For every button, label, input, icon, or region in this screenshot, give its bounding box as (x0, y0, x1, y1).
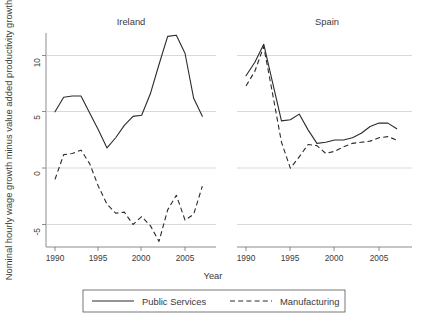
series-line-public-services-ireland (55, 35, 202, 148)
chart-figure: Nominal hourly wage growth minus value a… (0, 0, 427, 321)
x-tick-label-1995-spain: 1995 (281, 253, 300, 263)
y-axis (42, 33, 46, 247)
x-tick-label-1995-ireland: 1995 (89, 253, 108, 263)
x-tick-label-1990-spain: 1990 (237, 253, 256, 263)
y-tick-label-10: 10 (32, 58, 42, 68)
spain-x-axis: 1990 1995 2000 2005 (237, 247, 412, 263)
y-tick-label-0: 0 (32, 171, 42, 176)
x-tick-label-2005-spain: 2005 (370, 253, 389, 263)
y-tick-label-5: 5 (32, 115, 42, 120)
panel-spain: Spain 1990 1995 2000 2005 (237, 16, 412, 263)
x-tick-label-2005-ireland: 2005 (176, 253, 195, 263)
x-tick-label-2000-ireland: 2000 (132, 253, 151, 263)
y-axis-title-group: Nominal hourly wage growth minus value a… (3, 0, 14, 280)
legend-label-manufacturing: Manufacturing (280, 296, 339, 307)
x-tick-label-1990-ireland: 1990 (46, 253, 65, 263)
panel-ireland: Ireland 1990 1995 2000 2005 (46, 16, 216, 263)
x-tick-label-2000-spain: 2000 (325, 253, 344, 263)
ireland-x-axis: 1990 1995 2000 2005 (46, 247, 216, 263)
legend-label-public-services: Public Services (142, 296, 206, 307)
chart-legend: Public Services Manufacturing (83, 290, 345, 312)
y-axis-title: Nominal hourly wage growth minus value a… (3, 0, 14, 280)
panel-title-ireland: Ireland (117, 16, 146, 27)
series-line-public-services-spain (246, 44, 397, 143)
panel-title-spain: Spain (315, 16, 339, 27)
chart-canvas: Nominal hourly wage growth minus value a… (0, 0, 427, 321)
y-tick-labels: 10 5 0 -5 (32, 58, 42, 236)
y-tick-label-neg5: -5 (32, 228, 42, 236)
x-axis-title: Year (204, 270, 223, 281)
series-line-manufacturing-ireland (55, 150, 202, 241)
spain-gridlines (237, 56, 412, 225)
